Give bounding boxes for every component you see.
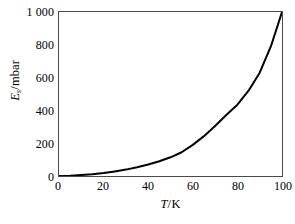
plot-area [58, 11, 283, 177]
chart-figure: 1 000 800 600 400 200 0 0 20 40 60 80 10… [0, 0, 295, 224]
x-tick-label-20: 20 [83, 180, 123, 193]
y-axis-unit: mbar [8, 60, 22, 86]
y-axis-separator: / [8, 86, 22, 90]
x-axis-unit: K [171, 197, 180, 211]
x-tick-label-80: 80 [218, 180, 258, 193]
y-axis-subscript: s [13, 90, 23, 93]
x-tick-label-40: 40 [128, 180, 168, 193]
x-axis-title: T/K [58, 197, 283, 211]
x-tick-label-100: 100 [263, 180, 295, 193]
plot-canvas [59, 12, 282, 176]
y-tick-label-1000: 1 000 [2, 6, 54, 18]
y-axis-title: Es/mbar [8, 41, 25, 121]
x-tick-label-0: 0 [38, 180, 78, 193]
data-series-line [59, 12, 282, 176]
y-tick-label-200: 200 [2, 138, 54, 150]
y-axis-symbol: E [8, 93, 22, 101]
x-tick-label-60: 60 [173, 180, 213, 193]
